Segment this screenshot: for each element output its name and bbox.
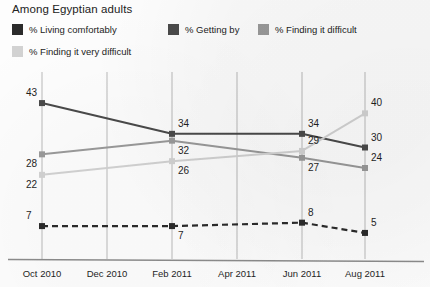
data-point-label: 30 [371,132,382,143]
data-point-marker [362,145,368,151]
data-point-marker [39,172,45,178]
data-point-label: 5 [371,217,377,228]
legend-item-finding-it-difficult: % Finding it difficult [258,24,357,35]
data-point-label: 32 [178,145,189,156]
data-point-marker [39,223,45,229]
data-point-label: 24 [371,152,382,163]
data-point-label: 22 [26,179,37,190]
data-point-marker [299,148,305,154]
legend-label: % Finding it difficult [275,25,357,35]
data-point-label: 34 [308,118,319,129]
data-point-label: 26 [178,165,189,176]
data-point-marker [39,100,45,106]
data-point-marker [299,220,305,226]
legend-item-living-comfortably: % Living comfortably [12,24,117,35]
x-axis-tick-label: Aug 2011 [345,268,385,279]
data-point-marker [362,230,368,236]
data-point-marker [39,151,45,157]
x-axis-tick-label: Oct 2010 [23,268,62,279]
legend-label: % Living comfortably [29,25,117,35]
data-point-label: 7 [178,230,184,241]
legend-swatch-icon [12,24,23,35]
legend-label: % Finding it very difficult [29,47,131,57]
data-point-label: 34 [178,118,189,129]
chart-canvas [0,60,430,287]
x-axis-tick-label: Dec 2010 [87,268,128,279]
data-point-label: 27 [308,162,319,173]
legend-swatch-icon [12,46,23,57]
legend-swatch-icon [168,24,179,35]
legend-label: % Getting by [185,25,239,35]
legend-item-getting-by: % Getting by [168,24,239,35]
legend-swatch-icon [258,24,269,35]
series-line [42,223,365,233]
chart-title: Among Egyptian adults [12,3,132,15]
data-point-marker [362,110,368,116]
data-point-label: 29 [308,135,319,146]
x-axis-tick-label: Jun 2011 [283,268,321,279]
data-point-marker [299,155,305,161]
x-axis-line [8,260,424,262]
x-axis-tick-label: Apr 2011 [218,268,256,279]
data-point-marker [169,138,175,144]
data-point-label: 43 [26,87,37,98]
legend-item-finding-it-very-difficult: % Finding it very difficult [12,46,131,57]
x-axis-tick-label: Feb 2011 [152,268,191,279]
chart-plot-area: 4334343028322724222629407785Oct 2010Dec … [0,60,430,287]
data-point-marker [362,165,368,171]
chart-page: Among Egyptian adults % Living comfortab… [0,0,430,287]
data-point-label: 40 [371,97,382,108]
data-point-label: 8 [308,207,314,218]
data-point-label: 28 [26,158,37,169]
data-point-marker [169,131,175,137]
data-point-marker [299,131,305,137]
data-point-marker [169,223,175,229]
data-point-marker [169,158,175,164]
data-point-label: 7 [26,210,32,221]
